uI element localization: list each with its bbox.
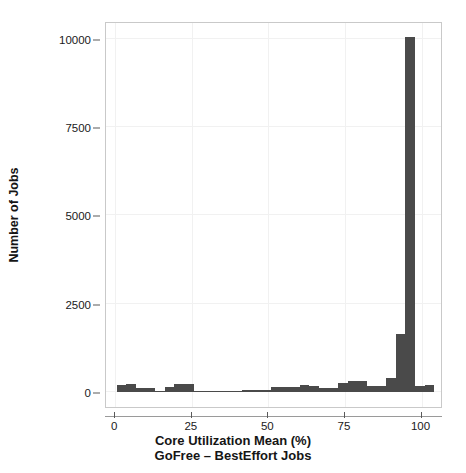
plot-area	[105, 22, 442, 408]
x-tick-mark	[267, 412, 268, 418]
histogram-bar	[136, 388, 146, 392]
histogram-bar	[357, 381, 367, 392]
histogram-bar	[184, 384, 193, 392]
histogram-bar	[252, 390, 261, 392]
histogram-bar	[280, 387, 289, 392]
histogram-bar	[338, 383, 348, 392]
histogram-bar	[425, 385, 435, 392]
histogram-bar	[377, 386, 386, 392]
histogram-bar	[415, 386, 424, 392]
histogram-bar	[261, 390, 270, 392]
y-tick-label: 2500	[65, 299, 91, 311]
x-tick-label: 100	[411, 420, 430, 432]
x-tick-mark	[421, 412, 422, 418]
x-axis-title-primary: Core Utilization Mean (%)	[0, 433, 466, 448]
x-tick-mark	[114, 412, 115, 418]
histogram-bar	[242, 390, 252, 392]
y-tick-mark	[93, 128, 100, 129]
histogram-bar	[328, 388, 337, 392]
histogram-bar	[117, 385, 126, 392]
x-tick-label: 50	[261, 420, 274, 432]
histogram-bar	[213, 391, 222, 392]
x-axis-title-secondary: GoFree – BestEffort Jobs	[0, 448, 466, 463]
y-tick-mark	[93, 393, 100, 394]
x-tick-label: 75	[338, 420, 351, 432]
y-tick-label: 10000	[59, 34, 91, 46]
histogram-bar	[222, 391, 232, 392]
histogram-bar	[348, 381, 357, 392]
y-tick-label: 7500	[65, 122, 91, 134]
x-tick-label: 25	[184, 420, 197, 432]
histogram-bar	[203, 391, 213, 392]
histogram-bar	[405, 37, 415, 392]
histogram-bar	[300, 385, 309, 392]
histogram-bar	[290, 387, 300, 392]
histogram-bar	[319, 388, 329, 392]
histogram-bar	[232, 391, 241, 392]
histogram-bar	[165, 387, 174, 392]
histogram-bar	[396, 334, 405, 392]
y-tick-mark	[93, 216, 100, 217]
x-tick-label: 0	[111, 420, 117, 432]
y-tick-label: 0	[85, 387, 91, 399]
y-tick-mark	[93, 304, 100, 305]
x-axis-line	[105, 416, 442, 417]
histogram-figure: Number of Jobs 025005000750010000 025507…	[0, 0, 466, 473]
histogram-bar	[271, 387, 281, 392]
histogram-bars	[106, 23, 441, 407]
histogram-bar	[126, 384, 135, 392]
y-tick-label: 5000	[65, 210, 91, 222]
histogram-bar	[386, 378, 396, 392]
histogram-bar	[155, 391, 165, 392]
histogram-bar	[367, 386, 376, 392]
x-tick-mark	[344, 412, 345, 418]
histogram-bar	[174, 384, 184, 392]
histogram-bar	[146, 388, 155, 392]
histogram-bar	[309, 386, 318, 392]
x-tick-mark	[191, 412, 192, 418]
y-tick-mark	[93, 39, 100, 40]
y-axis: 025005000750010000	[0, 0, 105, 473]
histogram-bar	[194, 391, 203, 392]
